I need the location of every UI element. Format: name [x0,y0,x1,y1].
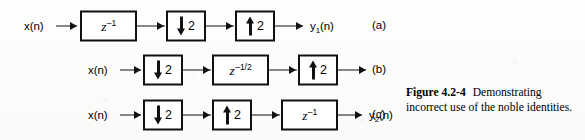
arrowhead-a-0 [70,22,77,30]
expander-inner-b: 2 [309,61,327,80]
part-label-a: (a) [372,19,386,31]
input-label-b: x(n) [88,64,107,76]
down-arrow-icon [154,61,163,80]
arrowhead-a-3 [296,22,303,30]
decimator-inner-b: 2 [154,61,172,80]
decimator-inner-c: 2 [154,106,172,125]
block-delay-c: z–1 [281,100,338,131]
arrowhead-b-0 [134,66,141,74]
arrowhead-c-0 [134,111,141,119]
expander-inner-c: 2 [223,106,241,125]
up-arrow-icon [223,106,232,125]
block-decimator-c: 2 [143,100,183,131]
expander-inner-a: 2 [246,17,264,36]
delay-block-label-b: z–1/2 [230,63,252,77]
down-arrow-icon [154,106,163,125]
part-label-b: (b) [372,63,386,75]
expander-factor-c: 2 [234,109,241,122]
arrowhead-c-3 [355,111,362,119]
block-expander-c: 2 [212,100,252,131]
input-label-a: x(n) [24,20,43,32]
block-decimator-b: 2 [143,55,183,86]
arrowhead-b-3 [359,66,366,74]
input-label-c: x(n) [88,109,107,121]
up-arrow-icon [309,61,318,80]
block-delay-a: z–1 [80,11,137,42]
arrowhead-a-2 [226,22,233,30]
up-arrow-icon [246,17,255,36]
arrowhead-c-1 [203,111,210,119]
arrowhead-c-2 [272,111,279,119]
figure-caption: Figure 4.2-4Demonstrating incorrect use … [406,86,582,116]
arrowhead-a-1 [157,22,164,30]
arrowhead-b-2 [289,66,296,74]
expander-factor-a: 2 [257,20,264,33]
decimator-factor-c: 2 [165,109,172,122]
block-decimator-a: 2 [166,11,206,42]
expander-factor-b: 2 [320,64,327,77]
output-label-a: y1(n) [310,20,334,32]
delay-block-label-c: z–1 [302,108,317,122]
diagram-row-a: x(n) z–1 2 2 y1(n) [0,4,585,48]
decimator-factor-b: 2 [165,64,172,77]
block-delay-b: z–1/2 [212,55,269,86]
delay-block-label-a: z–1 [101,19,116,33]
figure-4-2-4: x(n) z–1 2 2 y1(n) [0,0,585,140]
block-expander-b: 2 [298,55,338,86]
figure-caption-label: Figure 4.2-4 [406,86,466,99]
decimator-inner-a: 2 [177,17,195,36]
part-label-c: (c) [372,108,385,120]
block-expander-a: 2 [235,11,275,42]
down-arrow-icon [177,17,186,36]
arrowhead-b-1 [203,66,210,74]
decimator-factor-a: 2 [188,20,195,33]
